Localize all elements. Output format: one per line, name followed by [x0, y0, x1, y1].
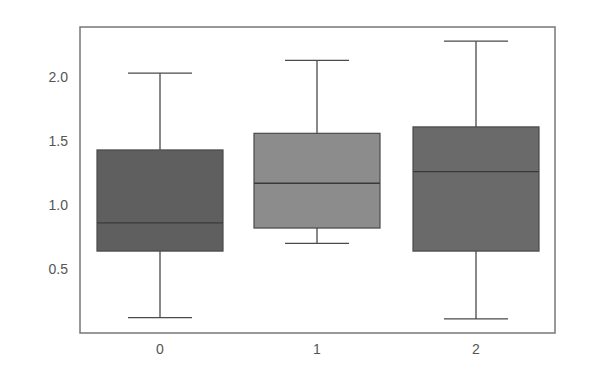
x-axis-tick-labels: 012: [156, 341, 480, 357]
y-tick-label: 1.0: [49, 197, 69, 213]
x-tick-label: 1: [313, 341, 321, 357]
x-tick-label: 2: [472, 341, 480, 357]
y-tick-label: 1.5: [49, 133, 69, 149]
box-plot-chart: 0.51.01.52.0 012: [0, 0, 589, 373]
chart-canvas: 0.51.01.52.0 012: [0, 0, 589, 373]
boxes-layer: [97, 41, 539, 319]
y-tick-label: 0.5: [49, 261, 69, 277]
iqr-box: [413, 127, 539, 251]
y-axis-tick-labels: 0.51.01.52.0: [49, 69, 69, 277]
iqr-box: [254, 133, 380, 228]
x-tick-label: 0: [156, 341, 164, 357]
box-group-2: [413, 41, 539, 319]
box-group-1: [254, 60, 380, 243]
y-tick-label: 2.0: [49, 69, 69, 85]
iqr-box: [97, 150, 223, 251]
box-group-0: [97, 73, 223, 317]
